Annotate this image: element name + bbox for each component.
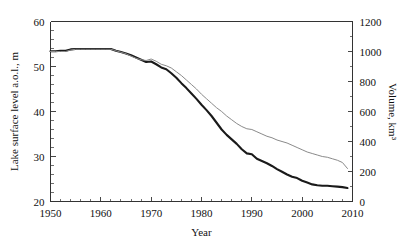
left-tick-label: 40 bbox=[34, 106, 46, 118]
left-tick-label: 60 bbox=[34, 16, 46, 28]
right-tick-label: 1200 bbox=[360, 16, 383, 28]
right-axis-title: Volume, km³ bbox=[387, 83, 399, 141]
left-tick-label: 30 bbox=[34, 151, 46, 163]
left-tick-label: 50 bbox=[34, 61, 46, 73]
right-tick-label: 1000 bbox=[360, 46, 383, 58]
chart-figure: 2030405060 020040060080010001200 1950196… bbox=[0, 0, 403, 242]
left-axis-title: Lake surface level a.o.l., m bbox=[8, 52, 20, 172]
series-line-volume bbox=[51, 49, 348, 168]
bottom-axis-ticks: 1950196019701980199020002010 bbox=[40, 197, 365, 219]
x-tick-label: 1970 bbox=[140, 207, 163, 219]
x-tick-label: 1950 bbox=[40, 207, 63, 219]
x-tick-label: 2010 bbox=[342, 207, 365, 219]
right-tick-label: 400 bbox=[360, 136, 377, 148]
left-axis-ticks: 2030405060 bbox=[34, 16, 56, 208]
line-chart: 2030405060 020040060080010001200 1950196… bbox=[0, 0, 403, 242]
x-tick-label: 2000 bbox=[291, 207, 314, 219]
x-tick-label: 1960 bbox=[90, 207, 113, 219]
right-tick-label: 800 bbox=[360, 76, 377, 88]
x-tick-label: 1990 bbox=[241, 207, 264, 219]
right-tick-label: 600 bbox=[360, 106, 377, 118]
series-layer bbox=[51, 49, 348, 188]
x-tick-label: 1980 bbox=[191, 207, 214, 219]
series-line-level bbox=[51, 49, 348, 188]
right-tick-label: 200 bbox=[360, 166, 377, 178]
x-axis-title: Year bbox=[191, 226, 212, 238]
